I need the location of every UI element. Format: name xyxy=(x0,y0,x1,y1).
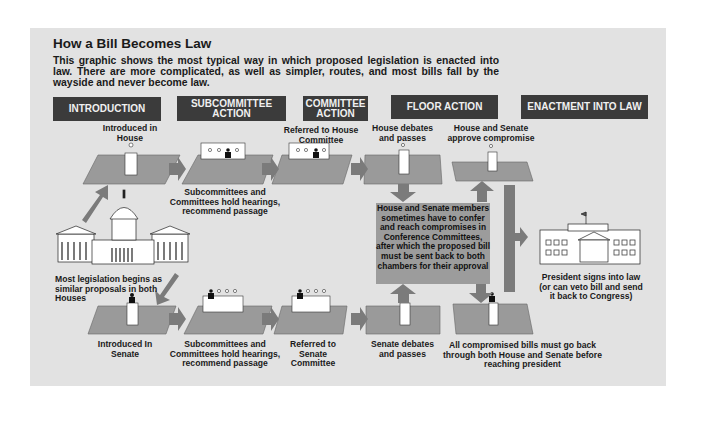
arrow-down xyxy=(390,184,416,202)
label-president: President signs into law (or can veto bi… xyxy=(536,273,646,302)
label-senate-floor: Senate debates and passes xyxy=(365,340,440,359)
arrow-up xyxy=(470,181,494,202)
label-house-senate-approve: House and Senate approve compromise xyxy=(446,124,536,143)
label-referred-house: Referred to House Committee xyxy=(276,126,366,145)
conference-committee-box: House and Senate members sometimes have … xyxy=(376,203,490,284)
label-introduced-senate: Introduced In Senate xyxy=(95,340,155,359)
label-house-floor: House debates and passes xyxy=(365,124,440,143)
label-introduced-house: Introduced in House xyxy=(100,124,160,143)
label-compromise-return: All compromised bills must go back throu… xyxy=(440,341,605,370)
vertical-connector xyxy=(504,185,515,292)
white-house-icon xyxy=(540,212,640,264)
platform-house-subcommittee xyxy=(182,155,273,184)
label-house-subcommittee: Subcommittees and Committees hold hearin… xyxy=(160,188,290,217)
house-platforms xyxy=(83,155,533,184)
label-referred-senate: Referred to Senate Committee xyxy=(283,340,343,369)
platform-house-committee xyxy=(272,155,352,184)
label-senate-subcommittee: Subcommittees and Committees hold hearin… xyxy=(160,340,290,369)
arrow-up-house xyxy=(82,185,108,223)
label-origin: Most legislation begins as similar propo… xyxy=(55,275,170,304)
arrow-right xyxy=(351,307,368,331)
arrow-right xyxy=(515,227,528,247)
arrow-up xyxy=(390,284,416,303)
